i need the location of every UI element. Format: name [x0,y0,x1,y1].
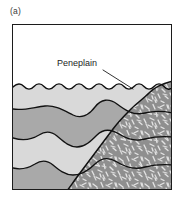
panel-label: (a) [10,6,21,16]
geologic-cross-section [13,25,172,190]
figure-panel: (a) [0,0,181,202]
figure-frame [12,24,172,190]
peneplain-annotation-label: Peneplain [57,58,97,69]
